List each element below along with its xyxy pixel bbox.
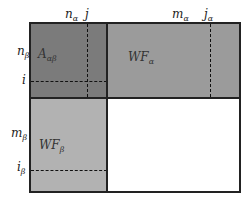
horizontal-divider <box>29 97 241 99</box>
label-i-beta: iβ <box>17 161 25 176</box>
label-m-alpha: mα <box>172 8 189 23</box>
label-WF-beta: WFβ <box>39 139 64 154</box>
dashed-line-j <box>87 24 88 97</box>
label-n-alpha: nα <box>65 8 78 23</box>
dashed-line-i <box>31 81 107 82</box>
label-j-alpha: jα <box>204 8 213 23</box>
dashed-line-i-beta <box>31 170 107 171</box>
label-i: i <box>22 74 26 86</box>
label-A-alpha-beta: Aαβ <box>38 48 57 63</box>
label-n-beta: nβ <box>17 45 29 60</box>
label-j: j <box>85 8 89 20</box>
vertical-divider <box>106 22 108 193</box>
block-empty <box>107 98 241 193</box>
label-WF-alpha: WFα <box>128 51 154 66</box>
label-m-beta: mβ <box>11 127 27 142</box>
dashed-line-j-alpha <box>210 24 211 97</box>
